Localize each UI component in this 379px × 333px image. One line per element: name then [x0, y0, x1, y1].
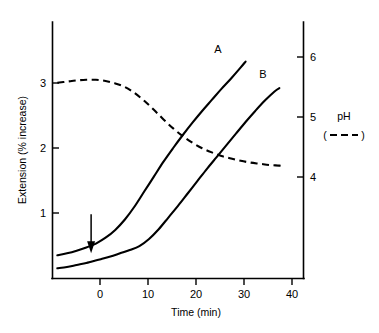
y-axis-title: Extension (% increase) [16, 96, 28, 204]
bottom-tick-label-30: 30 [238, 288, 250, 300]
ph-dashed-curve [57, 80, 284, 167]
bottom-tick-label-10: 10 [142, 288, 154, 300]
bottom-tick-label-20: 20 [190, 288, 202, 300]
right-tick-label-6: 6 [310, 51, 316, 63]
ph-legend-paren-open: ( [323, 129, 327, 141]
ph-legend-paren-close: ) [361, 129, 365, 141]
bottom-tick-label-40: 40 [286, 288, 298, 300]
right-tick-label-5: 5 [310, 111, 316, 123]
chart-svg: 3 2 1 6 5 4 0 10 20 30 40 Time (min) Ext… [0, 0, 379, 333]
bottom-tick-label-0: 0 [97, 288, 103, 300]
right-tick-label-4: 4 [310, 171, 316, 183]
bottom-axis-ticks [100, 279, 292, 286]
ph-legend-label: pH [337, 110, 350, 122]
extension-curve-a [57, 62, 245, 256]
ph-legend: pH ( ) [323, 110, 365, 141]
left-tick-label-1: 1 [40, 207, 46, 219]
curve-label-a: A [214, 43, 222, 55]
x-axis-title: Time (min) [171, 306, 221, 318]
chart-figure: 3 2 1 6 5 4 0 10 20 30 40 Time (min) Ext… [0, 0, 379, 333]
left-tick-label-2: 2 [40, 142, 46, 154]
right-axis-ticks [297, 57, 304, 177]
left-tick-label-3: 3 [40, 77, 46, 89]
left-axis-ticks [53, 83, 60, 213]
curve-label-b: B [259, 68, 266, 80]
